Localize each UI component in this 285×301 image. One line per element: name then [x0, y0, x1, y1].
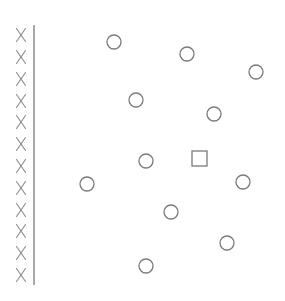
circle-icon — [180, 47, 194, 61]
circle-icon — [80, 177, 94, 191]
square-markers — [192, 151, 207, 166]
x-mark-icon: X — [17, 29, 26, 42]
x-mark-icon: X — [17, 51, 26, 64]
x-mark-icon: X — [17, 95, 26, 108]
x-mark-icon: X — [17, 182, 26, 195]
circle-icon — [129, 93, 143, 107]
x-marks-column: XXXXXXXXXXXX — [17, 29, 26, 282]
circle-icon — [236, 175, 250, 189]
circle-icon — [107, 35, 121, 49]
circle-icon — [249, 65, 263, 79]
x-mark-icon: X — [17, 73, 26, 86]
x-mark-icon: X — [17, 138, 26, 151]
x-mark-icon: X — [17, 204, 26, 217]
x-mark-icon: X — [17, 225, 26, 238]
circle-icon — [207, 107, 221, 121]
x-mark-icon: X — [17, 116, 26, 129]
circle-icon — [139, 154, 153, 168]
circle-markers — [80, 35, 263, 273]
circle-icon — [220, 236, 234, 250]
circle-icon — [164, 205, 178, 219]
square-icon — [192, 151, 207, 166]
x-mark-icon: X — [17, 160, 26, 173]
diagram-canvas: XXXXXXXXXXXX — [0, 0, 285, 301]
x-mark-icon: X — [17, 247, 26, 260]
x-mark-icon: X — [17, 269, 26, 282]
circle-icon — [139, 259, 153, 273]
